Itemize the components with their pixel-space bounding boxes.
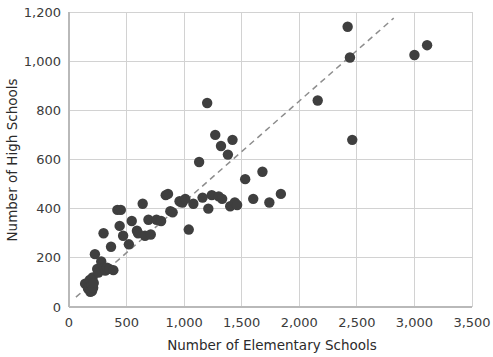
x-axis-title: Number of Elementary Schools — [167, 337, 377, 353]
y-tick-labels: 02004006008001,0001,200 — [24, 5, 61, 315]
y-axis-title: Number of High Schools — [4, 79, 20, 242]
data-point — [342, 22, 352, 32]
y-tick-label: 0 — [53, 300, 61, 315]
data-point — [240, 174, 250, 184]
data-point — [257, 167, 267, 177]
data-point — [184, 224, 194, 234]
x-tick-label: 3,500 — [453, 315, 490, 330]
y-tick-label: 800 — [36, 103, 61, 118]
data-point — [216, 141, 226, 151]
data-point — [347, 135, 357, 145]
data-point — [108, 265, 118, 275]
data-point — [223, 149, 233, 159]
x-tick-label: 500 — [114, 315, 139, 330]
scatter-chart: 02004006008001,0001,200 05001,0001,5002,… — [0, 0, 493, 357]
data-point — [114, 221, 124, 231]
data-point — [156, 216, 166, 226]
x-tick-label: 2,000 — [281, 315, 318, 330]
y-tick-label: 400 — [36, 201, 61, 216]
data-point — [313, 95, 323, 105]
data-point — [264, 197, 274, 207]
data-point — [227, 135, 237, 145]
data-point — [167, 207, 177, 217]
data-point — [345, 52, 355, 62]
data-point — [106, 242, 116, 252]
data-point — [202, 98, 212, 108]
data-point — [188, 199, 198, 209]
y-tick-label: 600 — [36, 152, 61, 167]
x-tick-label: 1,000 — [166, 315, 203, 330]
data-point — [89, 278, 99, 288]
data-point — [98, 228, 108, 238]
y-tick-label: 1,000 — [24, 54, 61, 69]
plot-canvas: 02004006008001,0001,200 05001,0001,5002,… — [0, 0, 493, 357]
data-point — [116, 205, 126, 215]
data-point — [276, 189, 286, 199]
data-point — [409, 50, 419, 60]
data-point — [203, 203, 213, 213]
y-tick-label: 200 — [36, 250, 61, 265]
x-tick-label: 1,500 — [223, 315, 260, 330]
data-point — [163, 189, 173, 199]
data-point — [197, 192, 207, 202]
data-point — [248, 194, 258, 204]
x-tick-labels: 05001,0001,5002,0002,5003,0003,500 — [65, 315, 491, 330]
data-point — [118, 231, 128, 241]
data-point — [217, 194, 227, 204]
data-point — [194, 157, 204, 167]
data-point — [210, 130, 220, 140]
y-tick-label: 1,200 — [24, 5, 61, 20]
data-point — [232, 200, 242, 210]
data-point — [137, 199, 147, 209]
x-tick-label: 0 — [65, 315, 73, 330]
data-point — [146, 229, 156, 239]
x-tick-label: 2,500 — [338, 315, 375, 330]
x-tick-label: 3,000 — [396, 315, 433, 330]
data-point — [124, 239, 134, 249]
data-point — [127, 216, 137, 226]
data-point — [422, 40, 432, 50]
